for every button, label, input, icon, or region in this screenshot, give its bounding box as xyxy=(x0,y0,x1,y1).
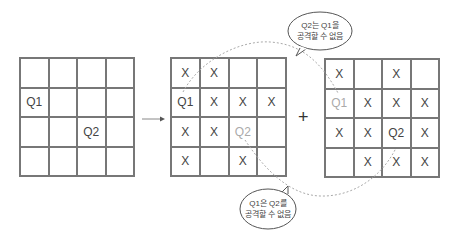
board-cell xyxy=(20,58,49,88)
board-cell xyxy=(49,88,78,118)
board-cell: X xyxy=(411,89,440,119)
plus-operator: + xyxy=(298,107,309,128)
callout-top-text: Q2는 Q1을 공격할 수 없음 xyxy=(290,20,350,42)
board-cell: Q1 xyxy=(325,89,354,119)
board-cell xyxy=(325,148,354,178)
callout-top-line1: Q2는 Q1을 xyxy=(290,20,350,31)
initial-board-grid: Q1 Q2 xyxy=(19,57,135,177)
board-cell: X xyxy=(229,147,258,177)
board-cell: Q2 xyxy=(229,117,258,147)
board-cell: X xyxy=(171,147,200,177)
board-cell xyxy=(49,147,78,177)
board-cell xyxy=(106,88,135,118)
board-cell: X xyxy=(382,59,411,89)
board-cell xyxy=(77,147,106,177)
board-cell: X xyxy=(411,148,440,178)
board-cell xyxy=(106,147,135,177)
callout-bottom-line1: Q1은 Q2를 xyxy=(240,198,296,209)
board-cell: X xyxy=(171,117,200,147)
board-cell xyxy=(257,147,286,177)
board-cell: X xyxy=(171,58,200,88)
board-cell: X xyxy=(229,88,258,118)
board-cell xyxy=(106,58,135,88)
board-cell: X xyxy=(200,117,229,147)
q2-attack-grid: X X Q1 X X X X X Q2 X X X X xyxy=(324,58,440,178)
board-cell xyxy=(49,58,78,88)
board-cell: X xyxy=(411,118,440,148)
board-cell: X xyxy=(325,59,354,89)
board-cell: Q1 xyxy=(171,88,200,118)
board-cell: X xyxy=(354,89,383,119)
board-cell xyxy=(229,58,258,88)
board-cell: X xyxy=(200,58,229,88)
callout-top-line2: 공격할 수 없음 xyxy=(290,31,350,42)
board-cell xyxy=(411,59,440,89)
board-cell: X xyxy=(200,88,229,118)
board-cell xyxy=(200,147,229,177)
board-cell: X xyxy=(354,148,383,178)
board-cell: X xyxy=(382,89,411,119)
board-cell: X xyxy=(257,88,286,118)
callout-bottom-text: Q1은 Q2를 공격할 수 없음 xyxy=(240,198,296,220)
board-cell xyxy=(49,117,78,147)
board-cell xyxy=(20,117,49,147)
board-cell: Q2 xyxy=(382,118,411,148)
board-cell: Q1 xyxy=(20,88,49,118)
callout-bottom-line2: 공격할 수 없음 xyxy=(240,209,296,220)
board-cell: X xyxy=(382,148,411,178)
board-cell xyxy=(77,88,106,118)
board-cell: X xyxy=(354,118,383,148)
arrow-right-icon xyxy=(142,117,165,122)
board-cell xyxy=(20,147,49,177)
board-cell xyxy=(257,117,286,147)
board-cell xyxy=(354,59,383,89)
board-cell: Q2 xyxy=(77,117,106,147)
board-cell xyxy=(77,58,106,88)
board-cell xyxy=(106,117,135,147)
board-cell xyxy=(257,58,286,88)
board-cell: X xyxy=(325,118,354,148)
q1-attack-grid: X X Q1 X X X X X Q2 X X xyxy=(170,57,287,177)
